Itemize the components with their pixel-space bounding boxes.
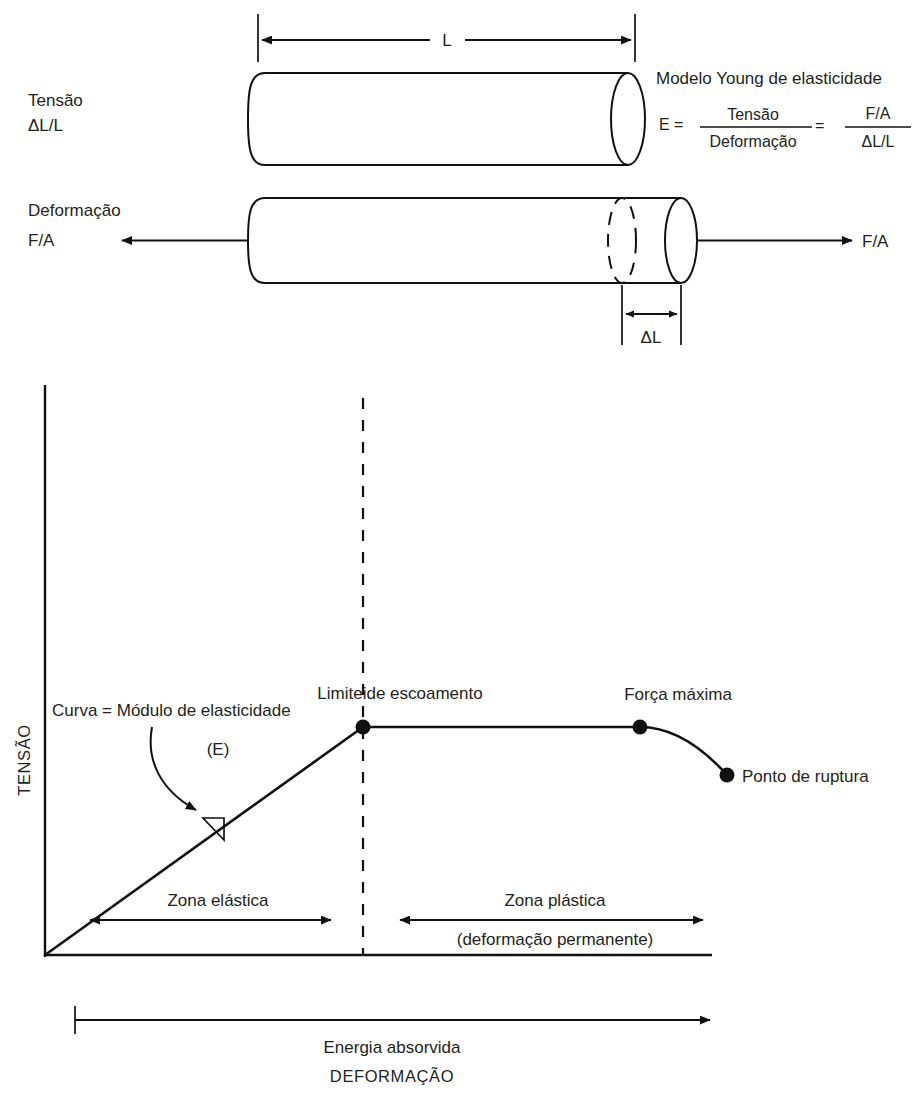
delta-length-label: ΔL — [641, 328, 662, 347]
stress-label-line1: Tensão — [28, 91, 83, 110]
plastic-zone-sublabel: (deformação permanente) — [457, 930, 654, 949]
yield-point-marker — [356, 720, 371, 735]
cylinder1-right-cap — [611, 73, 645, 165]
plastic-zone-label: Zona plástica — [504, 891, 606, 910]
delta-length-dimension: ΔL — [622, 285, 681, 347]
curve-necking-segment — [640, 727, 727, 775]
stress-label-group: Tensão ΔL/L — [28, 91, 83, 135]
strain-label-line1: Deformação — [28, 201, 121, 220]
max-force-marker — [633, 720, 648, 735]
x-axis-label: DEFORMAÇÃO — [330, 1066, 454, 1085]
specimen-cylinder-stretched — [248, 198, 697, 283]
cylinder2-right-cap — [665, 198, 697, 283]
yield-point-label: Limiteide escoamento — [317, 684, 482, 703]
energy-annotation: Energia absorvida — [75, 1006, 710, 1057]
rupture-point-marker — [720, 768, 735, 783]
specimen-cylinder-unstressed — [248, 73, 645, 165]
max-force-label: Força máxima — [624, 685, 732, 704]
y-axis-label: TENSÃO — [14, 724, 33, 795]
length-dimension: L — [258, 14, 635, 62]
stress-strain-figure: L Tensão ΔL/L Modelo Young de elasticida… — [0, 0, 922, 1093]
modulus-pointer-arrow — [151, 727, 196, 810]
young-model-group: Modelo Young de elasticidade E = Tensão … — [656, 69, 911, 150]
formula-lhs: E = — [659, 116, 683, 133]
young-model-title: Modelo Young de elasticidade — [656, 69, 882, 88]
plastic-zone-annotation: Zona plástica (deformação permanente) — [400, 891, 703, 949]
formula-numerator-1: Tensão — [727, 106, 779, 123]
force-right-label: F/A — [862, 232, 889, 251]
formula-denominator-1: Deformação — [709, 133, 796, 150]
formula-numerator-2: F/A — [866, 105, 891, 122]
modulus-annotation: Curva = Módulo de elasticidade (E) — [52, 701, 291, 810]
elastic-zone-label: Zona elástica — [167, 891, 269, 910]
force-arrows: Deformação F/A F/A — [28, 201, 889, 251]
cylinder1-left-cap — [248, 73, 265, 165]
modulus-note-line1: Curva = Módulo de elasticidade — [52, 701, 291, 720]
cylinder2-left-cap — [248, 198, 265, 283]
figure-canvas: L Tensão ΔL/L Modelo Young de elasticida… — [0, 0, 922, 1093]
formula-denominator-2: ΔL/L — [862, 133, 895, 150]
energy-label: Energia absorvida — [323, 1038, 461, 1057]
length-label: L — [442, 31, 451, 50]
rupture-label: Ponto de ruptura — [742, 767, 869, 786]
strain-label-line2: F/A — [28, 231, 55, 250]
modulus-note-line2: (E) — [207, 740, 230, 759]
formula-equals: = — [815, 117, 824, 134]
original-end-position-ellipse — [608, 198, 636, 283]
stress-label-line2: ΔL/L — [28, 116, 63, 135]
